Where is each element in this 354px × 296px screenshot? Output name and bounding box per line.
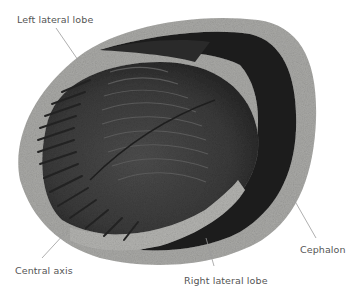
figure: Left lateral lobe Central axis Right lat… — [0, 0, 354, 296]
leader-central-axis — [42, 232, 66, 258]
label-central-axis: Central axis — [15, 265, 73, 276]
label-left-lateral-lobe: Left lateral lobe — [17, 14, 93, 25]
leader-left-lateral-lobe — [56, 28, 78, 60]
label-right-lateral-lobe: Right lateral lobe — [184, 275, 268, 286]
label-cephalon: Cephalon — [300, 244, 346, 255]
leader-cephalon — [292, 196, 316, 238]
